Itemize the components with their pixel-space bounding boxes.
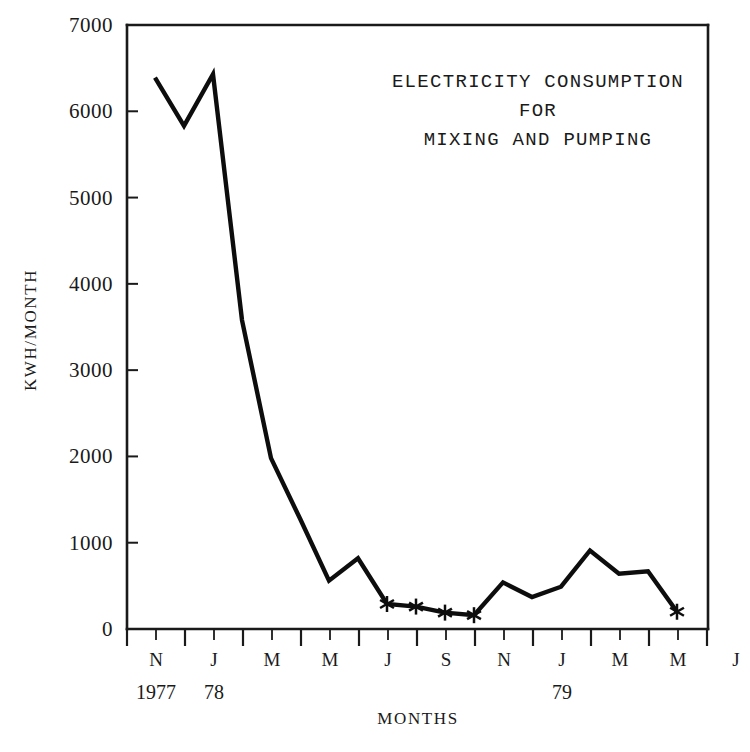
x-axis-month-label: N [149,649,163,670]
x-axis-month-label: M [264,649,281,670]
chart-title-line: ELECTRICITY CONSUMPTION [392,71,684,93]
y-axis-tick-label: 4000 [69,272,113,296]
chart-title-line: FOR [519,100,557,122]
y-axis-tick-label: 5000 [69,186,113,210]
chart-svg: 70006000500040003000200010000 KWH/MONTH … [0,0,750,752]
x-axis-year-label: 79 [552,681,572,703]
y-axis-title: KWH/MONTH [21,269,40,391]
x-axis-year-labels: 19777879 [136,681,572,703]
chart-title: ELECTRICITY CONSUMPTIONFORMIXING AND PUM… [392,71,684,151]
x-axis-month-label: M [670,649,687,670]
x-axis-month-labels: NJMMJSNJMMJ [149,649,740,670]
data-series-line [155,74,677,615]
y-axis-tick-label: 1000 [69,531,113,555]
x-axis-month-label: J [558,649,565,670]
x-axis-month-label: M [322,649,339,670]
chart-figure: 70006000500040003000200010000 KWH/MONTH … [0,0,750,752]
x-axis-month-label: J [384,649,391,670]
x-axis-month-label: N [497,649,511,670]
y-axis-tick-label: 3000 [69,358,113,382]
y-axis-tick-labels: 70006000500040003000200010000 [69,13,113,641]
y-axis-tick-label: 7000 [69,13,113,37]
x-axis-month-label: J [210,649,217,670]
x-axis-month-label: J [732,649,739,670]
x-axis-month-label: S [441,649,452,670]
y-axis-tick-label: 6000 [69,99,113,123]
x-axis-month-label: M [612,649,629,670]
y-axis-ticks [127,111,138,542]
chart-title-line: MIXING AND PUMPING [424,129,653,151]
plot-frame [127,25,708,629]
x-axis-ticks [127,629,707,646]
y-axis-tick-label: 0 [102,617,113,641]
y-axis-tick-label: 2000 [69,444,113,468]
x-axis-year-label: 1977 [136,681,176,703]
x-axis-year-label: 78 [204,681,224,703]
y-axis-title-text: KWH/MONTH [21,269,40,391]
x-axis-title-text: MONTHS [377,709,458,728]
